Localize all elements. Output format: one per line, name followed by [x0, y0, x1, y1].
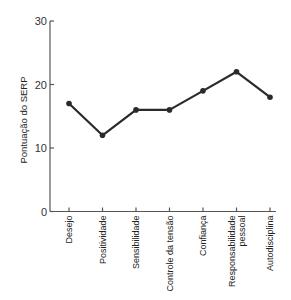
svg-text:Positividade: Positividade [98, 216, 108, 265]
y-tick-label: 20 [35, 79, 47, 91]
svg-text:pessoal: pessoal [237, 216, 247, 247]
svg-text:Autodisciplina: Autodisciplina [265, 216, 275, 272]
svg-text:Sensibilidade: Sensibilidade [131, 216, 141, 270]
y-tick-label: 0 [41, 206, 47, 218]
y-axis: 0102030 [35, 15, 54, 218]
y-tick-label: 30 [35, 15, 47, 27]
data-point [200, 88, 206, 94]
line-chart: 0102030 DesejoPositividadeSensibilidadeC… [0, 0, 291, 300]
y-tick-label: 10 [35, 142, 47, 154]
svg-text:Confiança: Confiança [198, 216, 208, 257]
x-tick-label: Controle da tensão [165, 216, 175, 292]
x-tick-label: Responsabilidadepessoal [227, 216, 247, 288]
data-point [167, 107, 173, 113]
x-tick-label: Autodisciplina [265, 216, 275, 272]
data-point [66, 101, 72, 107]
data-point [267, 94, 273, 100]
x-axis: DesejoPositividadeSensibilidadeControle … [50, 208, 276, 292]
x-tick-label: Sensibilidade [131, 216, 141, 270]
svg-text:Responsabilidade: Responsabilidade [227, 216, 237, 288]
svg-text:Controle da tensão: Controle da tensão [165, 216, 175, 292]
x-tick-label: Confiança [198, 216, 208, 257]
x-tick-label: Desejo [64, 216, 74, 244]
data-series [66, 69, 273, 138]
y-axis-title: Pontuação do SERP [18, 76, 29, 163]
x-tick-label: Positividade [98, 216, 108, 265]
data-point [133, 107, 139, 113]
data-point [100, 133, 106, 139]
series-line [69, 72, 270, 136]
svg-text:Desejo: Desejo [64, 216, 74, 244]
data-point [234, 69, 240, 75]
